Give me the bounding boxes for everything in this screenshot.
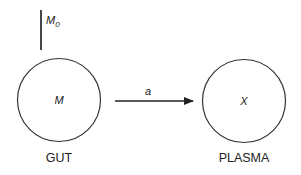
gut-compartment: M GUT — [18, 59, 101, 166]
compartment-diagram: M0 M GUT a X PLASMA — [0, 0, 301, 175]
rate-constant-label: a — [145, 85, 151, 97]
gut-label: GUT — [46, 151, 73, 165]
plasma-label: PLASMA — [219, 151, 270, 165]
dose-label: M0 — [46, 14, 60, 29]
plasma-compartment: X PLASMA — [203, 60, 286, 166]
plasma-content-label: X — [239, 95, 248, 107]
gut-content-label: M — [54, 94, 64, 106]
